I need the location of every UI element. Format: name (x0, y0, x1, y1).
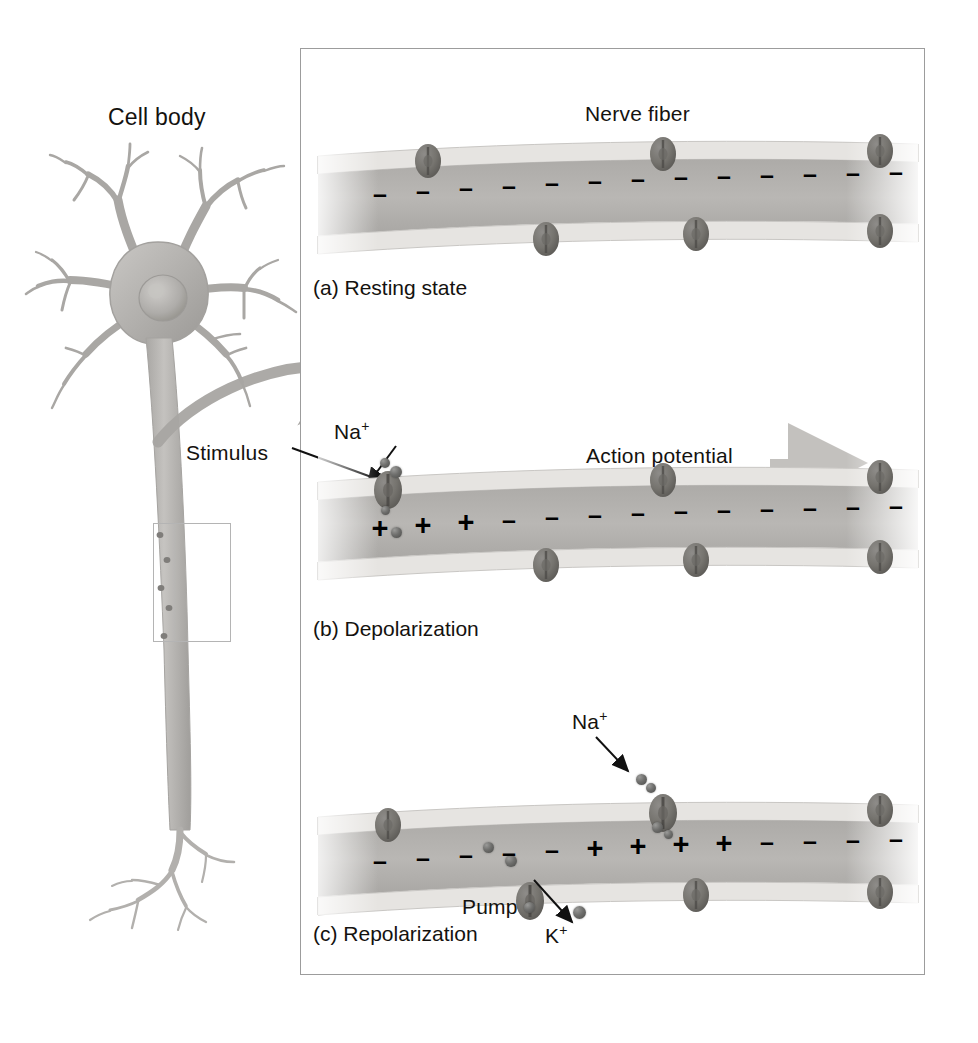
charge-negative: – (373, 182, 387, 207)
charge-negative: – (631, 167, 645, 192)
sodium-sup-c: + (599, 708, 607, 724)
pump-label: Pump (462, 895, 518, 919)
axon-terminals (90, 830, 234, 930)
charge-negative: – (416, 179, 430, 204)
panel-caption-b: (b) Depolarization (313, 617, 479, 641)
charge-negative: – (803, 495, 817, 520)
charge-negative: – (889, 827, 903, 852)
charge-negative: – (760, 162, 774, 187)
charge-positive: + (716, 828, 733, 857)
nucleolus (148, 284, 164, 299)
charge-negative: – (760, 496, 774, 521)
panel-caption-a: (a) Resting state (313, 276, 467, 300)
charge-negative: – (717, 497, 731, 522)
charge-positive: + (372, 514, 389, 543)
potassium-sup: + (559, 922, 567, 938)
charge-negative: – (373, 849, 387, 874)
charge-negative: – (502, 173, 516, 198)
charge-negative: – (889, 494, 903, 519)
nucleus (139, 275, 187, 321)
sodium-label-b: Na+ (334, 418, 370, 444)
charge-negative: – (459, 176, 473, 201)
charge-negative: – (889, 160, 903, 185)
sodium-text-b: Na (334, 420, 361, 443)
charge-negative: – (846, 827, 860, 852)
charge-negative: – (846, 494, 860, 519)
charge-negative: – (760, 829, 774, 854)
figure-stage: Cell body (0, 0, 978, 1043)
charge-negative: – (674, 499, 688, 524)
charge-row-b: +++–––––––––– (318, 450, 918, 590)
sodium-label-c: Na+ (572, 708, 608, 734)
cell-body-label: Cell body (108, 104, 206, 131)
charge-positive: + (630, 832, 647, 861)
nerve-fiber-label: Nerve fiber (585, 102, 690, 126)
charge-negative: – (631, 501, 645, 526)
charge-positive: + (587, 833, 604, 862)
charge-positive: + (415, 511, 432, 540)
stimulus-label: Stimulus (186, 441, 268, 465)
sodium-sup-b: + (361, 418, 369, 434)
panel-caption-c: (c) Repolarization (313, 922, 478, 946)
charge-positive: + (673, 830, 690, 859)
charge-negative: – (416, 846, 430, 871)
charge-row-c: –––––++++–––– (318, 775, 918, 915)
charge-negative: – (588, 168, 602, 193)
neuron-illustration (30, 130, 310, 930)
potassium-text: K (545, 924, 559, 947)
charge-negative: – (545, 838, 559, 863)
charge-positive: + (458, 508, 475, 537)
charge-negative: – (459, 843, 473, 868)
charge-negative: – (502, 840, 516, 865)
charge-negative: – (545, 171, 559, 196)
charge-negative: – (502, 507, 516, 532)
charge-negative: – (545, 505, 559, 530)
magnification-box (153, 523, 231, 642)
potassium-label: K+ (545, 922, 568, 948)
charge-negative: – (846, 160, 860, 185)
charge-negative: – (803, 161, 817, 186)
charge-row-a: ––––––––––––– (318, 128, 918, 268)
charge-negative: – (803, 828, 817, 853)
sodium-text-c: Na (572, 710, 599, 733)
charge-negative: – (588, 502, 602, 527)
charge-negative: – (674, 165, 688, 190)
charge-negative: – (717, 163, 731, 188)
